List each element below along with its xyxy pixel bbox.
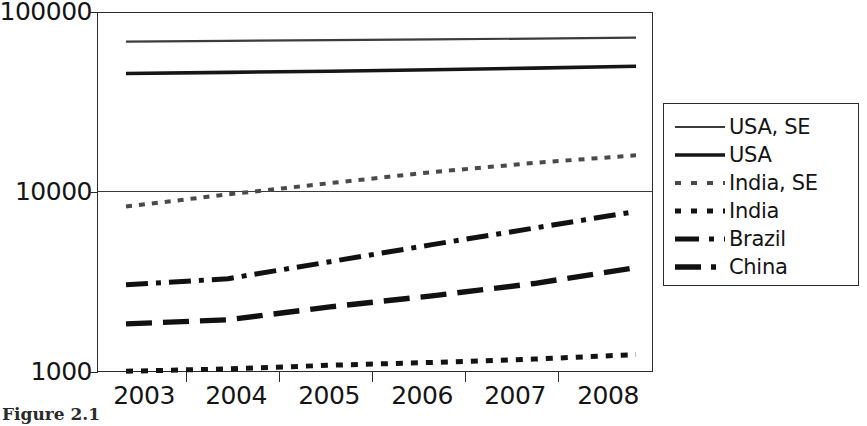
legend-label-usa: USA — [729, 145, 772, 166]
legend-label-brazil: Brazil — [729, 229, 786, 250]
y-axis-tick-100000: 100000 — [0, 0, 92, 25]
legend-label-usa-se: USA, SE — [729, 117, 810, 138]
legend-swatch-india-se — [674, 174, 726, 192]
y-axis-tick-10000: 10000 — [0, 179, 92, 205]
x-tick-mark-1 — [186, 372, 187, 382]
legend-label-china: China — [729, 257, 788, 278]
x-axis-label-2003: 2003 — [104, 382, 184, 410]
legend: USA, SE USA India, SE India Brazil — [663, 103, 859, 286]
y-tick-mark-1000 — [89, 372, 98, 373]
legend-swatch-india — [674, 202, 726, 220]
legend-item-india[interactable]: India — [664, 197, 858, 225]
x-axis-label-2005: 2005 — [289, 382, 369, 410]
plot-area — [97, 12, 653, 372]
legend-swatch-usa-se — [674, 118, 726, 136]
x-tick-mark-3 — [372, 372, 373, 382]
x-axis-label-2007: 2007 — [475, 382, 555, 410]
x-tick-mark-4 — [465, 372, 466, 382]
figure-root: 100000 10000 1000 2003 2004 2005 2006 20… — [0, 0, 867, 426]
legend-swatch-brazil — [674, 230, 726, 248]
legend-item-brazil[interactable]: Brazil — [664, 225, 858, 253]
x-tick-mark-5 — [558, 372, 559, 382]
legend-swatch-usa — [674, 146, 726, 164]
legend-label-india-se: India, SE — [729, 173, 818, 194]
x-tick-mark-2 — [279, 372, 280, 382]
y-axis-label-10000: 10000 — [15, 179, 92, 204]
x-axis-label-2008: 2008 — [568, 382, 648, 410]
legend-item-india-se[interactable]: India, SE — [664, 169, 858, 197]
legend-item-usa-se[interactable]: USA, SE — [664, 113, 858, 141]
legend-item-china[interactable]: China — [664, 253, 858, 281]
y-axis-label-100000: 100000 — [0, 0, 92, 24]
y-axis-tick-1000: 1000 — [0, 359, 92, 385]
x-axis-label-2004: 2004 — [196, 382, 276, 410]
gridline-10000 — [97, 191, 653, 192]
legend-item-usa[interactable]: USA — [664, 141, 858, 169]
y-axis-label-1000: 1000 — [30, 359, 92, 384]
figure-caption: Figure 2.1 — [2, 405, 100, 426]
legend-label-india: India — [729, 201, 779, 222]
legend-swatch-china — [674, 258, 726, 276]
x-axis-label-2006: 2006 — [382, 382, 462, 410]
